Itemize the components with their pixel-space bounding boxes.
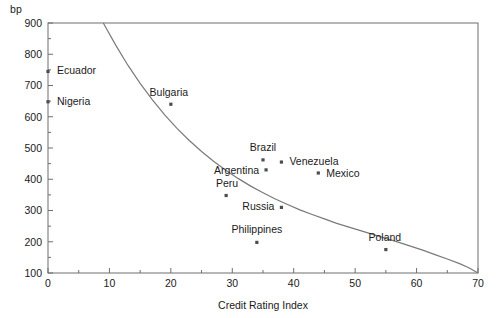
data-point-label: Peru <box>216 177 238 189</box>
x-tick-label: 70 <box>472 277 484 289</box>
y-tick-label: 900 <box>24 17 42 29</box>
y-tick-label: 100 <box>24 267 42 279</box>
data-marker <box>255 241 258 244</box>
x-tick-label: 50 <box>349 277 361 289</box>
y-axis-ticks: 100200300400500600700800900 <box>24 17 53 279</box>
data-marker <box>317 171 320 174</box>
data-marker <box>264 168 267 171</box>
x-tick-label: 40 <box>288 277 300 289</box>
data-marker <box>280 160 283 163</box>
y-tick-label: 600 <box>24 111 42 123</box>
x-axis-ticks: 010203040506070 <box>45 268 484 289</box>
x-tick-label: 20 <box>165 277 177 289</box>
x-axis-title: Credit Rating Index <box>218 299 309 311</box>
data-point-labels: EcuadorNigeriaBulgariaPeruBrazilVenezuel… <box>57 64 401 242</box>
data-point-label: Ecuador <box>57 64 97 76</box>
y-tick-label: 800 <box>24 48 42 60</box>
x-tick-label: 30 <box>226 277 238 289</box>
data-marker <box>46 100 49 103</box>
y-tick-label: 500 <box>24 142 42 154</box>
x-tick-label: 10 <box>104 277 116 289</box>
data-marker <box>46 70 49 73</box>
data-marker <box>280 206 283 209</box>
y-tick-label: 400 <box>24 173 42 185</box>
data-point-label: Bulgaria <box>150 86 189 98</box>
data-point-label: Philippines <box>231 223 282 235</box>
y-tick-label: 300 <box>24 204 42 216</box>
data-marker <box>169 103 172 106</box>
fit-curve <box>103 23 478 273</box>
y-tick-label: 700 <box>24 79 42 91</box>
data-point-label: Venezuela <box>289 155 338 167</box>
y-tick-label: 200 <box>24 236 42 248</box>
data-marker <box>384 248 387 251</box>
data-point-label: Nigeria <box>57 95 90 107</box>
data-point-label: Russia <box>242 200 274 212</box>
data-marker <box>261 158 264 161</box>
data-point-label: Brazil <box>250 141 276 153</box>
x-tick-label: 60 <box>411 277 423 289</box>
data-point-label: Poland <box>369 231 402 243</box>
data-point-label: Argentina <box>214 164 259 176</box>
scatter-plot: 100200300400500600700800900 010203040506… <box>0 0 498 318</box>
data-point-label: Mexico <box>326 167 359 179</box>
chart-container: bp 100200300400500600700800900 010203040… <box>0 0 498 318</box>
data-marker <box>225 194 228 197</box>
x-tick-label: 0 <box>45 277 51 289</box>
